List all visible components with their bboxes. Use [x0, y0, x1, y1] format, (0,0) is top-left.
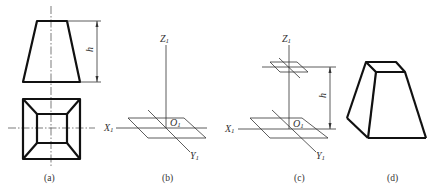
y-axis [272, 110, 316, 152]
z1-label: Z1 [160, 33, 169, 45]
edge-br [67, 143, 80, 159]
panel-label-b: (b) [162, 173, 173, 184]
x1-label: X1 [224, 123, 235, 135]
panel-a: h (a) [8, 6, 101, 184]
edge-tr [67, 99, 80, 114]
edge-bottom-left [347, 118, 368, 138]
panel-b: Z1 X1 O1 Y1 (b) [103, 33, 207, 184]
z1-label: Z1 [282, 33, 291, 45]
panel-d: (d) [347, 62, 426, 184]
top-plane-y-line [279, 58, 300, 78]
panel-c: h Z1 X1 O1 Y1 (c) [224, 33, 336, 184]
x1-label: X1 [103, 122, 114, 134]
edge-back-left [347, 62, 366, 118]
top-view-inner-square [37, 114, 67, 143]
o1-label: O1 [293, 118, 304, 130]
o1-label: O1 [170, 117, 181, 129]
panel-label-c: (c) [294, 173, 305, 184]
arrow-down-icon [96, 76, 99, 82]
edge-front-right [405, 72, 426, 138]
frustum-top-face [366, 62, 405, 72]
arrow-up-icon [96, 21, 99, 27]
y1-label: Y1 [316, 150, 325, 162]
dimension-h-label: h [84, 47, 95, 52]
frustum-axonometric-figure: h (a) Z1 X1 O1 Y1 (b) h [0, 0, 432, 194]
y1-label: Y1 [190, 150, 199, 162]
panel-label-d: (d) [387, 173, 398, 184]
edge-front-left [368, 72, 376, 138]
dimension-h-label: h [317, 93, 328, 98]
edge-tl [23, 99, 37, 114]
arrow-up-icon [329, 67, 332, 73]
edge-bl [23, 143, 37, 159]
front-view-trapezoid [23, 21, 80, 82]
panel-label-a: (a) [44, 173, 55, 184]
arrow-down-icon [329, 123, 332, 129]
y-axis [148, 110, 190, 152]
